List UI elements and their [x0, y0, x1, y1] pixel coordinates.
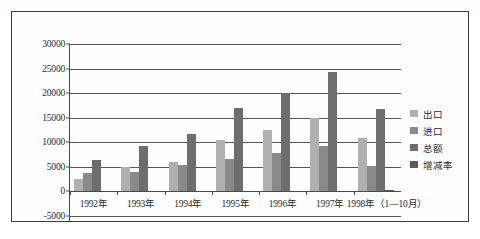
bar: [187, 134, 196, 191]
x-axis-category-label: 1997年: [316, 196, 344, 210]
bar: [263, 130, 272, 191]
bar: [178, 165, 187, 191]
bar-group: [74, 44, 110, 191]
y-axis-tick-label: 10000: [42, 137, 65, 147]
bar: [281, 93, 290, 191]
bar: [130, 172, 139, 191]
y-axis-tick-mark: [66, 68, 70, 69]
bar-group: [169, 44, 205, 191]
x-axis-tick-mark: [70, 191, 71, 195]
legend-swatch-icon: [410, 161, 418, 168]
legend-item: 增减率: [410, 156, 472, 173]
y-axis-tick-label: -5000: [44, 211, 65, 221]
bar: [169, 162, 178, 191]
x-axis-category-label: 1993年: [127, 196, 155, 210]
bar: [272, 153, 281, 191]
legend-item: 总额: [410, 139, 472, 156]
x-axis-category-label: 1996年: [269, 196, 297, 210]
bar: [92, 160, 101, 191]
y-axis-tick-mark: [66, 93, 70, 94]
bar: [234, 108, 243, 191]
bar-group: [263, 44, 299, 191]
y-axis-tick-mark: [66, 166, 70, 167]
x-axis-category-label: 1994年: [174, 196, 202, 210]
y-axis-tick-label: 30000: [42, 39, 65, 49]
bar: [310, 118, 319, 192]
y-axis-tick-label: 0: [60, 186, 65, 196]
legend-item: 出口: [410, 105, 472, 122]
bar: [225, 159, 234, 191]
y-axis-tick-label: 25000: [42, 64, 65, 74]
bar: [328, 72, 337, 191]
bar-group: [121, 44, 157, 191]
bar-group: [358, 44, 394, 191]
y-axis-tick-label: 5000: [47, 162, 65, 172]
bar: [376, 109, 385, 191]
bar: [358, 138, 367, 191]
x-axis-tick-mark: [259, 191, 260, 195]
y-axis-tick-mark: [66, 142, 70, 143]
x-axis-tick-mark: [354, 191, 355, 195]
bar: [139, 146, 148, 191]
axis-below-zero-area: -50001992年1993年1994年1995年1996年1997年1998年…: [69, 191, 400, 222]
legend-swatch-icon: [410, 110, 418, 117]
gridline: [70, 216, 401, 217]
x-axis-tick-mark: [212, 191, 213, 195]
y-axis-tick-mark: [66, 117, 70, 118]
bar-group: [310, 44, 346, 191]
legend-item-label: 进口: [423, 124, 443, 138]
x-axis-category-label: 1995年: [221, 196, 249, 210]
x-axis-category-label: 1992年: [80, 196, 108, 210]
bar: [367, 166, 376, 191]
chart-frame: 300002500020000150001000050000 -50001992…: [11, 11, 469, 222]
bar-group: [216, 44, 252, 191]
bar: [216, 140, 225, 191]
legend-item: 进口: [410, 122, 472, 139]
y-axis-tick-mark: [66, 215, 70, 216]
legend-swatch-icon: [410, 127, 418, 134]
x-axis-tick-mark: [165, 191, 166, 195]
x-axis-tick-mark: [306, 191, 307, 195]
scan-artifact-top: [0, 0, 480, 10]
bar: [83, 173, 92, 191]
bar: [121, 167, 130, 191]
y-axis-tick-label: 20000: [42, 88, 65, 98]
plot-area: 300002500020000150001000050000: [69, 44, 400, 191]
bar: [74, 179, 83, 191]
chart-legend: 出口进口总额增减率: [410, 105, 472, 173]
y-axis-tick-label: 15000: [42, 113, 65, 123]
x-axis-tick-mark: [117, 191, 118, 195]
legend-item-label: 增减率: [423, 158, 453, 172]
bar: [319, 146, 328, 191]
y-axis-tick-mark: [66, 44, 70, 45]
legend-item-label: 总额: [423, 141, 443, 155]
legend-item-label: 出口: [423, 107, 443, 121]
legend-swatch-icon: [410, 144, 418, 151]
x-axis-category-label: 1998年（1—10月）: [347, 196, 427, 210]
